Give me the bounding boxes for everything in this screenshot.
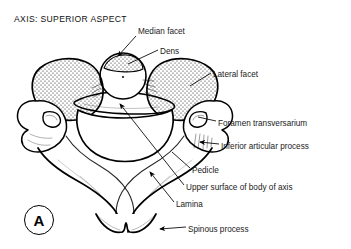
label-dens: Dens <box>160 48 179 56</box>
label-pedicle: Pedicle <box>192 167 219 175</box>
figure-title: AXIS: SUPERIOR ASPECT <box>14 14 127 24</box>
label-inferior-articular-process: Inferior articular process <box>221 143 309 151</box>
label-lateral-facet: Lateral facet <box>213 71 258 79</box>
leader-pedicle <box>172 152 190 168</box>
panel-marker-a: A <box>24 205 54 235</box>
label-upper-surface-body: Upper surface of body of axis <box>186 184 293 192</box>
vertebral-foramen <box>77 110 173 162</box>
label-median-facet: Median facet <box>138 28 185 36</box>
leader-lamina <box>150 172 174 202</box>
label-foramen-transversarium: Foramen transversarium <box>218 120 307 128</box>
transverse-process-left <box>17 101 66 152</box>
leader-spinous-process <box>160 227 186 229</box>
spinous-process <box>96 214 156 232</box>
label-spinous-process: Spinous process <box>188 226 249 234</box>
anatomical-figure: AXIS: SUPERIOR ASPECT Median facet Dens … <box>0 0 351 249</box>
label-lamina: Lamina <box>176 201 203 209</box>
